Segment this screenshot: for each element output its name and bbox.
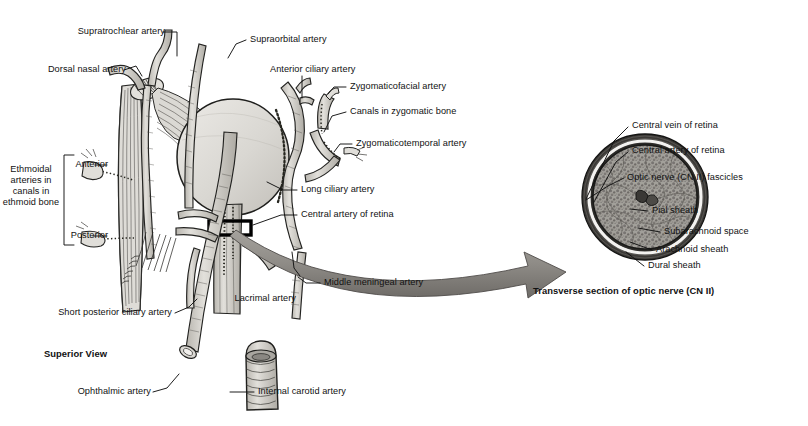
label-zygomaticotemporal-artery: Zygomaticotemporal artery [356,138,467,149]
supratrochlear-artery-vessel [148,30,172,86]
central-artery-of-retina-lumen [646,195,658,206]
label-subarachnoid-space: Subarachnoid space [664,226,749,237]
label-dural-sheath: Dural sheath [648,260,701,271]
label-pial-sheath: Pial sheath [652,205,698,216]
label-canals-in-zygomatic-bone: Canals in zygomatic bone [350,106,456,117]
label-short-posterior-ciliary-artery: Short posterior ciliary artery [34,307,172,318]
label-arachnoid-sheath: Arachnoid sheath [656,244,728,255]
label-ethmoidal-posterior: Posterior [58,230,108,241]
label-ophthalmic-artery: Ophthalmic artery [55,386,151,397]
label-middle-meningeal-artery: Middle meningeal artery [324,277,423,288]
label-supraorbital-artery: Supraorbital artery [250,34,327,45]
label-central-artery-of-retina-inset: Central artery of retina [632,145,725,156]
label-long-ciliary-artery: Long ciliary artery [301,184,374,195]
label-zygomaticofacial-artery: Zygomaticofacial artery [350,81,446,92]
label-lacrimal-artery: Lacrimal artery [204,293,296,304]
label-anterior-ciliary-artery: Anterior ciliary artery [270,64,355,75]
section-pointer-arrow [230,230,566,298]
zygomatic-canal-upper [318,94,334,129]
leader-supraorbital [228,40,246,58]
label-dorsal-nasal-artery: Dorsal nasal artery [22,64,126,75]
label-ethmoidal-arteries-group: Ethmoidal arteries in canals in ethmoid … [2,164,60,208]
label-ethmoidal-anterior: Anterior [60,159,108,170]
label-supratrochlear-artery: Supratrochlear artery [69,26,165,37]
label-optic-nerve-fascicles: Optic nerve (CN II) fascicles [627,172,743,183]
anterior-ciliary-branch [296,78,311,93]
caption-superior-view: Superior View [44,349,107,360]
leader-ophthalmic [153,374,179,392]
internal-carotid-artery-vessel [244,341,278,410]
caption-transverse-section: Transverse section of optic nerve (CN II… [533,286,714,297]
medial-muscle-bundle [118,84,143,312]
figure-canvas: Supratrochlear artery Dorsal nasal arter… [0,0,808,426]
label-internal-carotid-artery: Internal carotid artery [258,386,346,397]
label-central-artery-of-retina: Central artery of retina [301,209,394,220]
label-central-vein-of-retina: Central vein of retina [632,120,718,131]
